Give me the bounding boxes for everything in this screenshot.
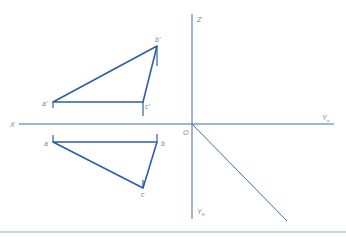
- yw-axis-label: Yw: [322, 114, 331, 123]
- point-a-prime-label: a': [42, 100, 48, 107]
- diagonal-45-line: [192, 124, 287, 221]
- point-b-prime-label: b': [155, 36, 161, 43]
- z-axis-label: Z: [196, 16, 202, 23]
- origin-label: O: [183, 129, 189, 136]
- point-b-label: b: [161, 140, 165, 147]
- point-c-label: c: [141, 191, 145, 198]
- point-c-prime-label: c': [145, 103, 151, 110]
- point-a-label: a: [44, 140, 48, 147]
- top-view-triangle: [53, 134, 157, 188]
- x-axis-label: X: [9, 121, 15, 128]
- yh-axis-label: YH: [197, 208, 205, 217]
- front-view-triangle: [53, 46, 157, 116]
- projection-diagram: X Z O Yw YH a' b' c' a b c: [0, 0, 346, 237]
